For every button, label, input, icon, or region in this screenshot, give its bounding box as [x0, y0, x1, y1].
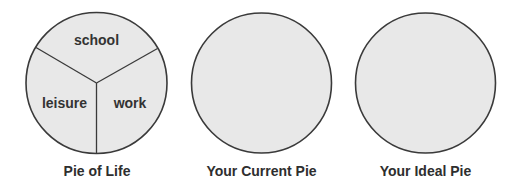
pie-diagrams: school leisure work Pie of Life Your Cur… [0, 0, 518, 187]
pie-of-life: school leisure work Pie of Life [26, 13, 167, 179]
your-current-pie: Your Current Pie [192, 13, 332, 179]
your-ideal-pie: Your Ideal Pie [356, 13, 496, 179]
slice-label-leisure: leisure [42, 95, 87, 111]
slice-label-work: work [113, 95, 147, 111]
caption-ideal-pie: Your Ideal Pie [380, 163, 472, 179]
slice-label-school: school [74, 32, 119, 48]
caption-pie-of-life: Pie of Life [64, 163, 131, 179]
caption-current-pie: Your Current Pie [206, 163, 316, 179]
ideal-pie-circle [356, 13, 496, 153]
current-pie-circle [192, 13, 332, 153]
